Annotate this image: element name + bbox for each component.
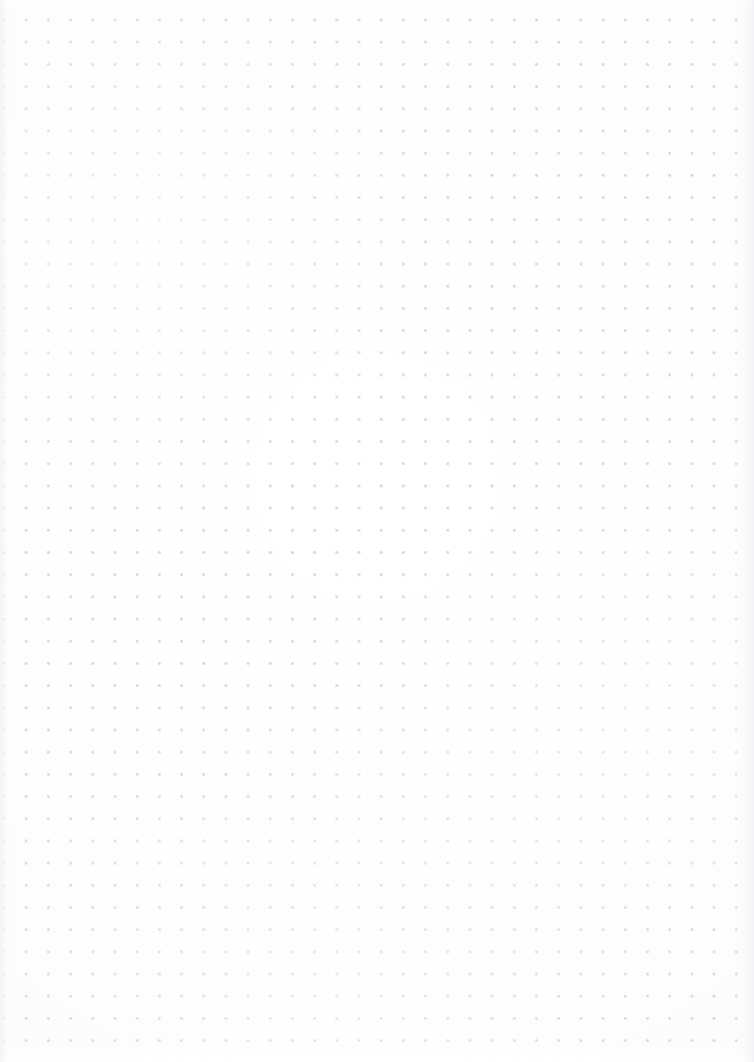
dot-grid-page [0, 0, 754, 1062]
page-content-area[interactable] [0, 0, 754, 1062]
